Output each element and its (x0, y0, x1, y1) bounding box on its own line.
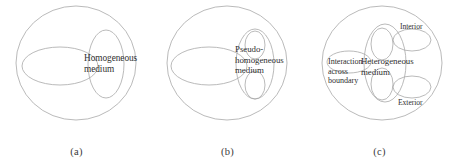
homogeneous-medium-label: Homogeneous medium (84, 53, 137, 75)
homogeneous-medium-label-line-1: Homogeneous (84, 53, 137, 64)
pseudo-homogeneous-medium-label: Pseudo- homogeneous medium (235, 44, 284, 76)
interaction-across-boundary-label: Interaction across boundary (328, 57, 363, 86)
panel-a-caption: (a) (0, 146, 153, 157)
pseudo-homogeneous-medium-label-line-2: homogeneous (235, 55, 284, 66)
panel-c: Heterogeneous medium Interaction across … (303, 0, 456, 163)
homogeneous-medium-label-line-2: medium (84, 64, 137, 75)
pseudo-homogeneous-medium-label-line-1: Pseudo- (235, 44, 284, 55)
panel-b-caption: (b) (151, 146, 304, 157)
exterior-label: Exterior (398, 98, 422, 107)
interaction-across-boundary-label-line-3: boundary (328, 76, 363, 86)
right-bottom-horizontal-ellipse (393, 76, 431, 98)
right-top-horizontal-ellipse (393, 29, 431, 51)
pseudo-homogeneous-medium-label-line-3: medium (235, 65, 284, 76)
heterogeneous-medium-label-line-2: medium (361, 67, 414, 78)
interaction-across-boundary-label-line-1: Interaction (328, 57, 363, 67)
interaction-across-boundary-label-line-2: across (328, 67, 363, 77)
heterogeneous-medium-label: Heterogeneous medium (361, 56, 414, 77)
interior-label: Interior (400, 22, 422, 31)
figure-medium-representations: Homogeneous medium (a) Pseudo- homogeneo… (0, 0, 461, 163)
heterogeneous-medium-label-line-1: Heterogeneous (361, 56, 414, 67)
panel-c-caption: (c) (303, 146, 456, 157)
panel-a: Homogeneous medium (a) (0, 0, 153, 163)
panel-b: Pseudo- homogeneous medium (b) (151, 0, 304, 163)
